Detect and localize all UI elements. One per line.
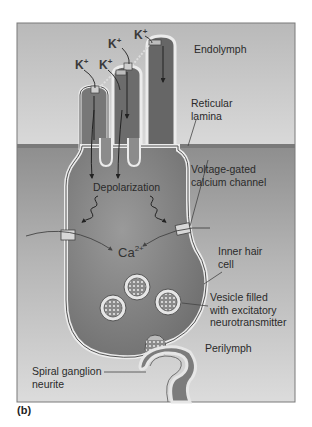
panel-label: (b) xyxy=(17,404,31,416)
ion-charge: 2+ xyxy=(135,244,144,253)
diagram-canvas xyxy=(0,0,312,427)
ion-charge: + xyxy=(84,57,89,66)
potassium-ion-label-4: K+ xyxy=(134,27,147,42)
potassium-ion-label-1: K+ xyxy=(75,57,88,72)
ion-symbol: Ca xyxy=(118,245,135,260)
vesicle-line2: with excitatory xyxy=(210,304,286,317)
voltage-gated-line2: calcium channel xyxy=(191,176,266,189)
perilymph-label: Perilymph xyxy=(205,342,252,355)
spiral-ganglion-line2: neurite xyxy=(32,378,101,391)
endolymph-label: Endolymph xyxy=(194,43,247,56)
ion-symbol: K xyxy=(75,58,84,72)
ion-charge: + xyxy=(143,27,148,36)
voltage-gated-calcium-channel-label: Voltage-gated calcium channel xyxy=(191,163,266,188)
reticular-lamina-line1: Reticular xyxy=(191,97,232,110)
vesicle-label: Vesicle filled with excitatory neurotran… xyxy=(210,291,286,329)
reticular-lamina-label: Reticular lamina xyxy=(191,97,232,122)
potassium-ion-label-2: K+ xyxy=(99,57,112,72)
calcium-ion-label: Ca2+ xyxy=(118,244,144,260)
reticular-lamina-line2: lamina xyxy=(191,110,232,123)
spiral-ganglion-neurite-label: Spiral ganglion neurite xyxy=(32,365,101,390)
vesicle-line1: Vesicle filled xyxy=(210,291,286,304)
ion-symbol: K xyxy=(134,28,143,42)
depolarization-label: Depolarization xyxy=(93,181,160,194)
ion-symbol: K xyxy=(108,37,117,51)
spiral-ganglion-line1: Spiral ganglion xyxy=(32,365,101,378)
potassium-ion-label-3: K+ xyxy=(108,36,121,51)
ion-charge: + xyxy=(108,57,113,66)
inner-hair-cell-label: Inner hair cell xyxy=(218,245,262,270)
inner-hair-cell-line2: cell xyxy=(218,258,262,271)
ion-symbol: K xyxy=(99,58,108,72)
voltage-gated-line1: Voltage-gated xyxy=(191,163,266,176)
inner-hair-cell-line1: Inner hair xyxy=(218,245,262,258)
inner-hair-cell-diagram: K+ K+ K+ K+ Ca2+ Endolymph Reticular lam… xyxy=(0,0,312,427)
vesicle-line3: neurotransmitter xyxy=(210,316,286,329)
ion-charge: + xyxy=(117,36,122,45)
